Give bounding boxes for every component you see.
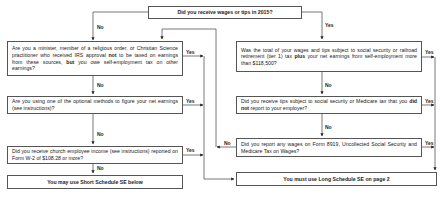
long-schedule-result-box: You must use Long Schedule SE on page 2 [236,172,437,186]
optional-methods-question-text: Are you using one of the optional method… [12,98,178,111]
start-question-text: Did you receive wages or tips in 2015? [153,9,297,16]
unreported-tips-question-text: Did you receive tips subject to social s… [241,98,417,111]
label-yes-optional: Yes [186,98,195,104]
minister-question-box: Are you a minister, member of a religiou… [7,41,183,76]
label-yes-minister: Yes [186,49,195,55]
unreported-tips-question-box: Did you receive tips subject to social s… [236,96,422,114]
church-income-question-box: Did you receive church employee income (… [7,146,183,164]
label-no-start: No [97,24,104,30]
church-income-question-text: Did you receive church employee income (… [12,148,178,161]
label-yes-form-8919: Yes [425,140,434,146]
label-yes-wages-total: Yes [425,49,434,55]
label-no-tips: No [325,124,332,130]
label-no-church: No [97,165,104,171]
label-yes-start: Yes [325,22,334,28]
wages-total-question-box: Was the total of your wages and tips sub… [236,41,422,72]
label-no-optional: No [97,131,104,137]
short-schedule-result-text: You may use Short Schedule SE below [12,179,178,186]
label-no-minister: No [97,82,104,88]
short-schedule-result-box: You may use Short Schedule SE below [7,175,183,189]
form-8919-question-box: Did you report any wages on Form 8919, U… [236,138,422,157]
form-8919-question-text: Did you report any wages on Form 8919, U… [241,141,417,154]
wages-total-question-text: Was the total of your wages and tips sub… [241,47,417,67]
start-question-box: Did you receive wages or tips in 2015? [148,6,302,19]
label-yes-church: Yes [186,147,195,153]
label-yes-tips: Yes [425,98,434,104]
label-no-form-8919: No [224,140,231,146]
minister-question-text: Are you a minister, member of a religiou… [12,45,178,71]
long-schedule-result-text: You must use Long Schedule SE on page 2 [241,176,432,183]
label-no-wages-total: No [325,82,332,88]
optional-methods-question-box: Are you using one of the optional method… [7,96,183,114]
